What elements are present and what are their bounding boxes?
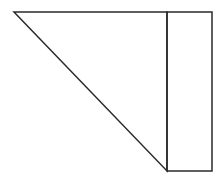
geometry-diagram	[0, 0, 224, 180]
right-triangle-shape	[14, 12, 167, 171]
rectangle-shape	[167, 12, 212, 171]
